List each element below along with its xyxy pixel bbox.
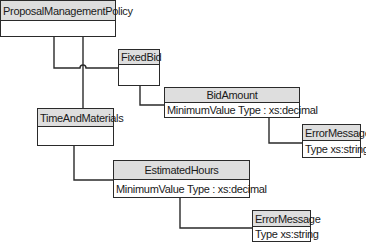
- node-error-message-1[interactable]: ErrorMessage Type xs:string: [302, 124, 361, 158]
- node-attributes: [1, 21, 115, 36]
- node-title: FixedBid: [119, 50, 159, 65]
- node-fixed-bid[interactable]: FixedBid: [118, 49, 160, 86]
- node-error-message-2[interactable]: ErrorMessage Type xs:string: [252, 210, 311, 242]
- node-estimated-hours[interactable]: EstimatedHours MinimumValue Type : xs:de…: [113, 160, 250, 198]
- node-title: ErrorMessage: [303, 125, 360, 141]
- node-attributes: MinimumValue Type : xs:decimal: [165, 103, 299, 117]
- node-attributes: [119, 65, 159, 85]
- diagram-canvas: ProposalManagementPolicy FixedBid BidAmo…: [0, 0, 366, 252]
- node-bid-amount[interactable]: BidAmount MinimumValue Type : xs:decimal: [164, 87, 300, 118]
- edge-policy-fixedbid: [54, 36, 118, 68]
- node-attributes: Type xs:string: [253, 227, 310, 241]
- node-time-and-materials[interactable]: TimeAndMaterials: [37, 108, 114, 146]
- node-title: TimeAndMaterials: [38, 109, 113, 127]
- node-proposal-management-policy[interactable]: ProposalManagementPolicy: [0, 0, 116, 37]
- edge-bidamount-errormessage: [269, 117, 302, 143]
- edge-timeandmaterials-estimatedhours: [74, 145, 113, 180]
- node-title: ErrorMessage: [253, 211, 310, 227]
- edge-fixedbid-bidamount: [140, 86, 164, 105]
- node-title: BidAmount: [165, 88, 299, 103]
- edge-estimatedhours-errormessage: [180, 197, 252, 228]
- node-title: EstimatedHours: [114, 161, 249, 180]
- node-attributes: Type xs:string: [303, 141, 360, 157]
- node-attributes: [38, 127, 113, 145]
- node-attributes: MinimumValue Type : xs:decimal: [114, 180, 249, 197]
- node-title: ProposalManagementPolicy: [1, 1, 115, 21]
